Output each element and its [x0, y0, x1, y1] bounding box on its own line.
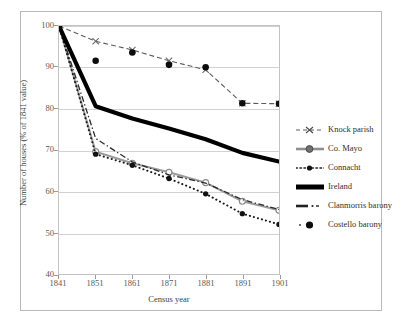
x-tick-label: 1851: [75, 279, 115, 288]
y-tick-label: 90: [24, 62, 54, 71]
chart-legend: Knock parish Co. Mayo Connacht Ireland C…: [296, 120, 400, 234]
thick-solid-line-key: [296, 181, 324, 193]
plot-area: [58, 25, 280, 275]
legend-item-co-mayo[interactable]: Co. Mayo: [296, 139, 400, 158]
legend-item-connacht[interactable]: Connacht: [296, 158, 400, 177]
legend-label: Knock parish: [324, 125, 374, 134]
y-tick-label: 80: [24, 104, 54, 113]
y-tick-label: 70: [24, 145, 54, 154]
legend-item-costello-barony[interactable]: Costello barony: [296, 215, 400, 234]
legend-item-knock-parish[interactable]: Knock parish: [296, 120, 400, 139]
x-tick-label: 1861: [112, 279, 152, 288]
legend-label: Connacht: [324, 163, 361, 172]
x-axis-ticks: 1841 1851 1861 1871 1881 1891 1901: [58, 279, 280, 293]
solid-circle-marker-key: [296, 143, 324, 155]
legend-label: Clanmorris barony: [324, 201, 392, 210]
y-tick-label: 60: [24, 187, 54, 196]
x-tick-label: 1871: [149, 279, 189, 288]
y-axis-ticks: 100 90 80 70 60 50 40: [22, 25, 54, 275]
legend-label: Costello barony: [324, 220, 382, 229]
dash-dot-line-key: [296, 200, 324, 212]
x-tick-label: 1901: [260, 279, 300, 288]
filled-circle-marker-key: [296, 219, 324, 231]
dashed-x-marker-key: [296, 124, 324, 136]
legend-item-clanmorris-barony[interactable]: Clanmorris barony: [296, 196, 400, 215]
series-layer: [59, 26, 279, 274]
x-tick-label: 1881: [186, 279, 226, 288]
x-tick-label: 1891: [223, 279, 263, 288]
dotted-dot-marker-key: [296, 162, 324, 174]
line-chart: Number of houses (% of 1841 value) 100 9…: [0, 0, 403, 329]
legend-label: Co. Mayo: [324, 144, 362, 153]
x-axis-title: Census year: [58, 294, 280, 304]
y-tick-label: 50: [24, 229, 54, 238]
legend-item-ireland[interactable]: Ireland: [296, 177, 400, 196]
legend-label: Ireland: [324, 182, 352, 191]
x-tick-label: 1841: [38, 279, 78, 288]
y-tick-label: 100: [24, 21, 54, 30]
